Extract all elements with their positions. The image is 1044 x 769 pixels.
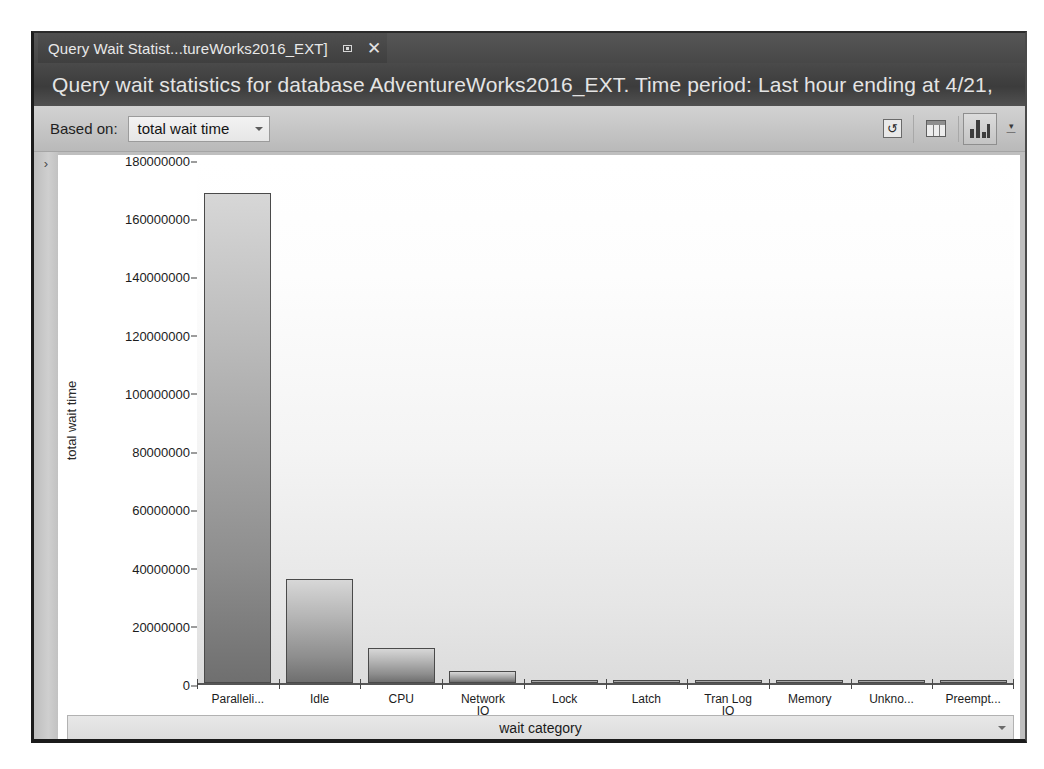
x-axis-tick-label: Paralleli...	[212, 692, 265, 706]
x-axis-tick-label: Lock	[552, 692, 577, 706]
bar-slot	[932, 161, 1014, 683]
bar-slot	[360, 161, 442, 683]
based-on-value: total wait time	[138, 120, 230, 137]
y-axis-title-label: total wait time	[65, 380, 80, 459]
x-axis-tick: NetworkIO	[442, 685, 524, 713]
based-on-select[interactable]: total wait time	[128, 116, 270, 142]
chart-view-button[interactable]	[963, 113, 997, 145]
x-axis-tick: Memory	[769, 685, 851, 713]
x-axis-tick: Idle	[279, 685, 361, 713]
tab-label: Query Wait Statist...tureWorks2016_EXT]	[48, 40, 328, 57]
grid-view-button[interactable]	[919, 113, 953, 145]
collapsed-left-panel[interactable]: ›	[34, 152, 58, 743]
x-axis-tick: Tran LogIO	[687, 685, 769, 713]
close-icon[interactable]: ✕	[367, 40, 381, 57]
y-axis-tick: 120000000	[125, 328, 190, 343]
bar-slot	[606, 161, 688, 683]
toolbar-divider	[913, 115, 914, 143]
bar[interactable]	[858, 680, 925, 683]
y-axis-tick: 60000000	[132, 503, 190, 518]
x-axis-tick-label: Idle	[310, 692, 329, 706]
bar-slot	[687, 161, 769, 683]
x-axis-tick-label: Preempt...	[946, 692, 1001, 706]
y-axis-tick: 140000000	[125, 270, 190, 285]
bar-slot	[197, 161, 279, 683]
bar[interactable]	[695, 680, 762, 683]
bar[interactable]	[286, 579, 353, 683]
y-axis-tick: 100000000	[125, 386, 190, 401]
y-axis-tick: 20000000	[132, 619, 190, 634]
x-axis-selector[interactable]: wait category	[67, 715, 1014, 741]
refresh-button[interactable]: ↺	[875, 113, 909, 145]
page-title: Query wait statistics for database Adven…	[34, 73, 993, 97]
bar[interactable]	[613, 680, 680, 683]
bar-chart: total wait time 180000000160000000140000…	[58, 155, 1020, 743]
bar[interactable]	[204, 193, 271, 683]
refresh-icon: ↺	[883, 119, 902, 138]
toolbar-divider	[958, 116, 959, 142]
y-axis-tick: 160000000	[125, 212, 190, 227]
x-axis-tick: Preempt...	[932, 685, 1014, 713]
bar-slot	[769, 161, 851, 683]
bar[interactable]	[368, 648, 435, 683]
bar[interactable]	[449, 671, 516, 683]
query-wait-statistics-window: Query Wait Statist...tureWorks2016_EXT] …	[31, 31, 1027, 743]
x-axis-tick-labels: Paralleli...IdleCPUNetworkIOLockLatchTra…	[197, 685, 1014, 713]
x-axis-tick-label: Unkno...	[869, 692, 914, 706]
bar-slot	[851, 161, 933, 683]
bar[interactable]	[940, 680, 1007, 683]
x-axis-tick: Unkno...	[851, 685, 933, 713]
y-axis-tick: 180000000	[125, 155, 190, 169]
pin-icon[interactable]	[342, 42, 355, 55]
chevron-right-icon[interactable]: ›	[34, 157, 58, 171]
x-axis-tick: Paralleli...	[197, 685, 279, 713]
x-axis-tick-label: CPU	[389, 692, 414, 706]
chart-toolbar: Based on: total wait time ↺ ▾	[34, 106, 1025, 152]
chevron-down-icon	[998, 726, 1006, 730]
y-axis-tick: 80000000	[132, 445, 190, 460]
x-axis-selector-label: wait category	[499, 720, 581, 736]
x-axis-tick-label: Memory	[788, 692, 831, 706]
based-on-label: Based on:	[50, 120, 118, 137]
chart-body: › total wait time 1800000001600000001400…	[34, 152, 1025, 743]
y-axis-tick: 0	[183, 678, 190, 693]
report-header-banner: Query wait statistics for database Adven…	[34, 63, 1025, 106]
tab-query-wait-statistics[interactable]: Query Wait Statist...tureWorks2016_EXT] …	[38, 33, 387, 63]
grid-icon	[926, 120, 946, 137]
overflow-bar-icon: —	[1007, 129, 1016, 135]
y-axis-tick: 40000000	[132, 561, 190, 576]
x-axis-tick: Lock	[524, 685, 606, 713]
toolbar-overflow-button[interactable]: ▾ —	[1003, 113, 1019, 145]
toolbar-buttons: ↺ ▾ —	[865, 110, 1019, 147]
plot-area	[197, 161, 1014, 685]
chevron-down-icon	[255, 127, 263, 131]
x-axis-tick-label: Latch	[632, 692, 661, 706]
bar-chart-icon	[970, 120, 990, 138]
bar[interactable]	[776, 680, 843, 683]
tab-strip: Query Wait Statist...tureWorks2016_EXT] …	[34, 33, 1025, 63]
bar-series	[197, 161, 1014, 683]
bar-slot	[524, 161, 606, 683]
bar-slot	[279, 161, 361, 683]
x-axis-tick: CPU	[360, 685, 442, 713]
bar[interactable]	[531, 680, 598, 683]
y-axis-title: total wait time	[62, 155, 82, 685]
bar-slot	[442, 161, 524, 683]
x-axis-tick: Latch	[606, 685, 688, 713]
y-axis-tick-labels: 1800000001600000001400000001200000001000…	[82, 155, 190, 685]
screenshot-root: Query Wait Statist...tureWorks2016_EXT] …	[0, 0, 1044, 769]
